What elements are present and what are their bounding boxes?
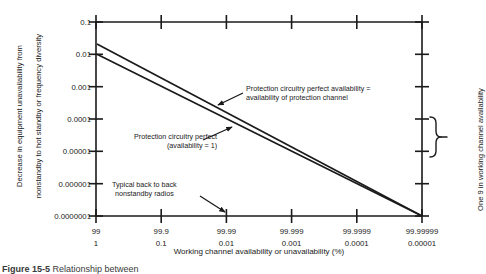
x-tick-label: 99.9 0.1 (126, 227, 196, 248)
x-tick-label: 99.99999 0.00001 (387, 227, 457, 248)
y-tick-label: 0.01 (76, 50, 91, 59)
figure-caption-number: Figure 15-5 (2, 264, 50, 274)
x-tick-label: 99.999 0.001 (257, 227, 327, 248)
annotation-line1: Typical back to back (112, 180, 177, 189)
x-tick-label-availability: 99 (61, 227, 131, 236)
y-tick-label: 0.000001 (58, 179, 91, 188)
x-tick-label-availability: 99.99999 (387, 227, 457, 236)
x-tick-label: 99 1 (61, 227, 131, 248)
x-tick-label: 99.99 0.01 (191, 227, 261, 248)
x-tick-label-availability: 99.999 (257, 227, 327, 236)
leader-protection-availability (218, 93, 243, 105)
y-tick-label: 0.0001 (67, 115, 91, 124)
y-tick-label: 0.00001 (63, 147, 91, 156)
y-tick-label: 0.001 (71, 82, 91, 91)
annotation-line2: (availability = 1) (134, 141, 217, 150)
annotation-line2: nonstandby radios (112, 189, 177, 198)
figure-caption: Figure 15-5 Relationship between (2, 264, 139, 274)
right-axis-title: One 9 in working channel availability (476, 55, 485, 245)
annotation-line1: Protection circuitry perfect availabilit… (246, 84, 370, 93)
brace-one-nine (430, 117, 447, 157)
y-tick-label: 0.1 (80, 18, 91, 27)
figure-caption-text: Relationship between (53, 264, 139, 274)
leader-typical-radios (200, 196, 225, 212)
annotation-line1: Protection circuitry perfect (134, 132, 217, 141)
y-tick-label: 0.0000001 (54, 212, 91, 221)
annotation-protection-availability: Protection circuitry perfect availabilit… (246, 84, 370, 102)
annotation-protection-perfect: Protection circuitry perfect (availabili… (134, 132, 217, 150)
x-tick-label-availability: 99.9 (126, 227, 196, 236)
x-tick-label-availability: 99.99 (191, 227, 261, 236)
x-tick-label: 99.9999 0.0001 (322, 227, 392, 248)
annotation-line2: availability of protection channel (246, 93, 370, 102)
annotation-typical-radios: Typical back to back nonstandby radios (112, 180, 177, 198)
x-tick-label-availability: 99.9999 (322, 227, 392, 236)
x-axis-title: Working channel availability or unavaila… (96, 247, 422, 256)
